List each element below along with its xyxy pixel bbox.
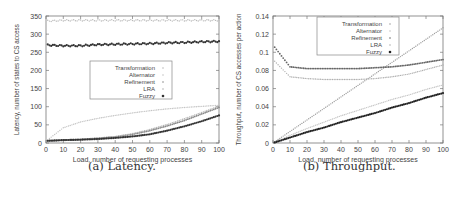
x-tick-label: 70	[388, 146, 396, 153]
x-tick-label: 0	[44, 146, 48, 153]
x-tick-label: 80	[405, 146, 413, 153]
legend-marker-icon	[162, 95, 165, 98]
x-tick-label: 80	[181, 146, 189, 153]
series-alternator	[47, 105, 220, 141]
latency-chart: 0102030405060708090100050100150200250300…	[0, 0, 231, 180]
x-tick-label: 10	[286, 146, 294, 153]
x-tick-label: 20	[303, 146, 311, 153]
x-tick-label: 40	[111, 146, 119, 153]
y-tick-label: 0.08	[255, 67, 269, 74]
legend: TransformationAlternatorRefinementLRAFuz…	[90, 61, 172, 99]
legend-entry: Transformation	[115, 65, 155, 71]
x-tick-label: 60	[146, 146, 154, 153]
y-tick-label: 250	[30, 49, 42, 56]
legend-entry: Fuzzy	[366, 49, 382, 55]
x-tick-label: 70	[163, 146, 171, 153]
x-tick-label: 40	[337, 146, 345, 153]
legend-marker-icon	[389, 23, 391, 25]
latency-panel: 0102030405060708090100050100150200250300…	[0, 0, 231, 197]
x-tick-label: 0	[271, 146, 275, 153]
series-fuzzy	[274, 92, 444, 144]
y-axis-label: Throughput, number of CS accesses per ac…	[235, 13, 243, 145]
throughput-panel: 010203040506070809010000.020.040.060.080…	[231, 0, 462, 197]
y-tick-label: 350	[30, 13, 42, 20]
x-tick-label: 50	[129, 146, 137, 153]
legend: TransformationAlternatorRefinementLRAFuz…	[317, 17, 399, 55]
legend-marker-icon	[162, 74, 164, 76]
legend-entry: LRA	[370, 42, 382, 48]
throughput-chart: 010203040506070809010000.020.040.060.080…	[231, 0, 462, 180]
series-transformation	[47, 19, 220, 22]
x-tick-label: 100	[437, 146, 449, 153]
series-fuzzy	[47, 114, 220, 142]
legend-marker-icon	[389, 51, 392, 54]
x-tick-label: 30	[94, 146, 102, 153]
legend-entry: Transformation	[342, 21, 382, 27]
y-tick-label: 0.14	[255, 13, 269, 20]
legend-entry: LRA	[143, 86, 155, 92]
y-tick-label: 50	[34, 121, 42, 128]
legend-marker-icon	[162, 67, 164, 69]
y-tick-label: 0.04	[255, 103, 269, 110]
y-tick-label: 0.12	[255, 31, 269, 38]
y-tick-label: 0.06	[255, 85, 269, 92]
y-tick-label: 100	[30, 103, 42, 110]
x-tick-label: 20	[77, 146, 85, 153]
x-tick-label: 100	[213, 146, 225, 153]
legend-marker-icon	[162, 81, 164, 83]
x-tick-label: 90	[422, 146, 430, 153]
y-tick-label: 150	[30, 85, 42, 92]
latency-caption: (a) Latency.	[88, 159, 156, 173]
legend-marker-icon	[389, 44, 391, 46]
legend-entry: Refinement	[351, 35, 382, 41]
legend-entry: Alternator	[129, 72, 155, 78]
y-tick-label: 0	[265, 140, 269, 147]
x-tick-label: 30	[320, 146, 328, 153]
y-tick-label: 200	[30, 67, 42, 74]
x-tick-label: 50	[354, 146, 362, 153]
legend-marker-icon	[389, 37, 391, 39]
y-axis-label: Latency, number of states to CS access	[13, 24, 21, 135]
y-tick-label: 0.02	[255, 121, 269, 128]
x-tick-label: 90	[198, 146, 206, 153]
legend-entry: Alternator	[356, 28, 382, 34]
y-tick-label: 0	[38, 140, 42, 147]
series-fuzzy-upper-	[47, 40, 220, 48]
legend-marker-icon	[162, 88, 164, 90]
legend-marker-icon	[389, 30, 391, 32]
legend-entry: Fuzzy	[139, 93, 155, 99]
x-tick-label: 10	[59, 146, 67, 153]
legend-entry: Refinement	[124, 79, 155, 85]
y-tick-label: 300	[30, 31, 42, 38]
x-tick-label: 60	[371, 146, 379, 153]
y-tick-label: 0.1	[259, 49, 269, 56]
throughput-caption: (b) Throughput.	[303, 159, 396, 173]
